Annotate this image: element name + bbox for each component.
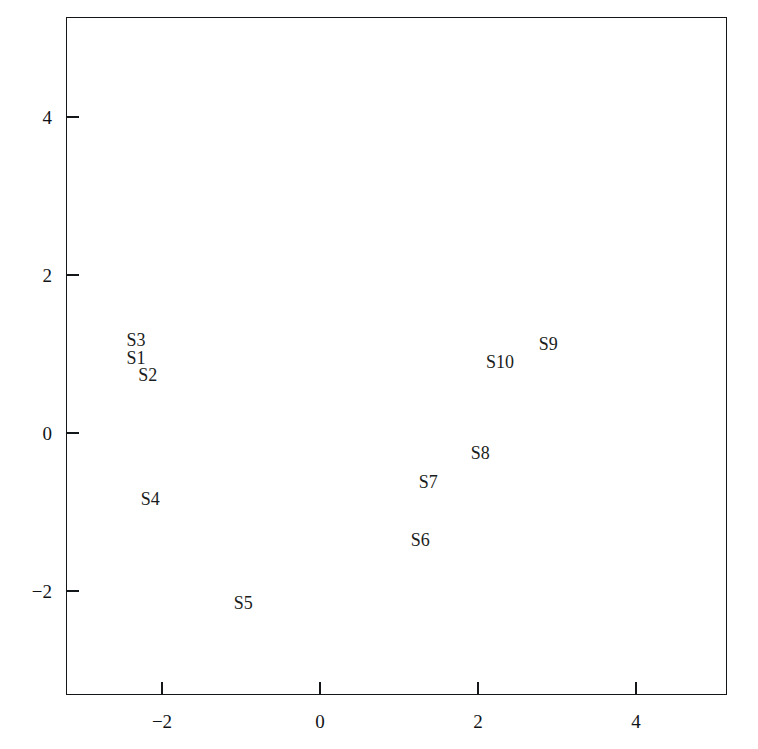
data-point-label: S7 xyxy=(419,473,438,491)
y-tick-mark xyxy=(66,432,79,433)
x-tick-mark xyxy=(319,682,320,695)
data-point-label: S9 xyxy=(539,335,558,353)
data-point-label: S5 xyxy=(234,594,253,612)
data-point-label: S3 xyxy=(126,331,145,349)
data-point-label: S4 xyxy=(141,490,160,508)
y-tick-label: 0 xyxy=(43,424,53,443)
x-tick-label: 4 xyxy=(631,712,641,731)
data-point-label: S2 xyxy=(138,366,157,384)
y-tick-mark xyxy=(66,590,79,591)
x-tick-label: −2 xyxy=(152,712,172,731)
x-tick-label: 2 xyxy=(473,712,483,731)
x-tick-mark xyxy=(635,682,636,695)
data-point-label: S6 xyxy=(411,531,430,549)
x-tick-label: 0 xyxy=(315,712,325,731)
y-tick-label: 2 xyxy=(43,266,53,285)
x-tick-mark xyxy=(161,682,162,695)
y-tick-mark xyxy=(66,274,79,275)
data-point-label: S10 xyxy=(486,353,514,371)
y-tick-mark xyxy=(66,116,79,117)
y-tick-label: 4 xyxy=(43,108,53,127)
y-tick-label: −2 xyxy=(32,582,52,601)
data-point-label: S8 xyxy=(471,444,490,462)
scatter-plot-figure: 420−2 −2024 S1S2S3S4S5S6S7S8S9S10 xyxy=(0,0,758,749)
data-point-label: S1 xyxy=(126,349,145,367)
plot-frame xyxy=(66,17,727,695)
x-tick-mark xyxy=(477,682,478,695)
